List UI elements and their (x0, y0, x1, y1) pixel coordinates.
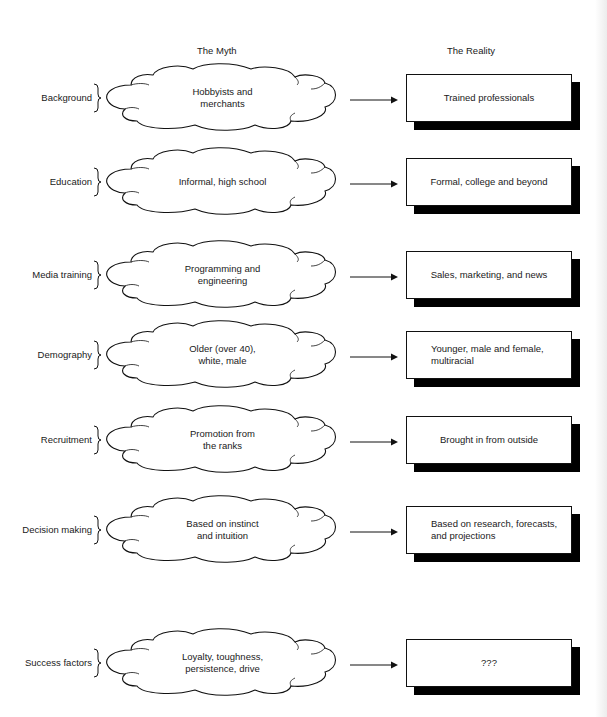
row-label: Media training (32, 269, 92, 280)
comparison-row-success-factors: Success factors Loyalty, toughness,persi… (0, 628, 607, 698)
right-arrow-icon (350, 96, 398, 104)
brace-icon (92, 167, 102, 197)
brace-icon (92, 648, 102, 678)
right-arrow-icon (350, 438, 398, 446)
reality-box: Sales, marketing, and news (406, 251, 572, 299)
myth-column-header: The Myth (197, 45, 237, 56)
brace-icon (92, 515, 102, 545)
row-label: Demography (38, 349, 92, 360)
row-label: Background (41, 92, 92, 103)
comparison-row-media-training: Media training Programming andengineerin… (0, 240, 607, 310)
reality-box: Younger, male and female,multiracial (406, 331, 572, 379)
reality-box: ??? (406, 639, 572, 687)
comparison-row-decision-making: Decision making Based on instinctand int… (0, 495, 607, 565)
reality-text: Sales, marketing, and news (431, 269, 548, 282)
comparison-row-demography: Demography Older (over 40),white, male Y… (0, 320, 607, 390)
reality-column-header: The Reality (447, 45, 495, 56)
reality-text: ??? (481, 657, 497, 670)
row-label: Recruitment (41, 434, 92, 445)
myth-text: Older (over 40),white, male (150, 320, 295, 390)
comparison-row-background: Background Hobbyists andmerchants Traine… (0, 63, 607, 133)
reality-box: Formal, college and beyond (406, 158, 572, 206)
reality-text: Formal, college and beyond (430, 176, 547, 189)
comparison-row-education: Education Informal, high school Formal, … (0, 147, 607, 217)
reality-text: Brought in from outside (440, 434, 538, 447)
right-arrow-icon (350, 180, 398, 188)
brace-icon (92, 83, 102, 113)
right-arrow-icon (350, 528, 398, 536)
reality-text: Younger, male and female,multiracial (431, 343, 544, 368)
myth-text: Based on instinctand intuition (150, 495, 295, 565)
myth-text: Promotion fromthe ranks (150, 405, 295, 475)
reality-box: Trained professionals (406, 74, 572, 122)
myth-text: Programming andengineering (150, 240, 295, 310)
reality-text: Trained professionals (444, 92, 534, 105)
right-arrow-icon (350, 353, 398, 361)
reality-box: Brought in from outside (406, 416, 572, 464)
brace-icon (92, 260, 102, 290)
comparison-row-recruitment: Recruitment Promotion fromthe ranks Brou… (0, 405, 607, 475)
myth-text: Informal, high school (150, 147, 295, 217)
reality-text: Based on research, forecasts,and project… (431, 518, 557, 543)
row-label: Education (50, 176, 92, 187)
right-arrow-icon (350, 661, 398, 669)
row-label: Decision making (22, 524, 92, 535)
brace-icon (92, 425, 102, 455)
right-arrow-icon (350, 273, 398, 281)
myth-text: Hobbyists andmerchants (150, 63, 295, 133)
brace-icon (92, 340, 102, 370)
row-label: Success factors (25, 657, 92, 668)
myth-text: Loyalty, toughness,persistence, drive (150, 628, 295, 698)
reality-box: Based on research, forecasts,and project… (406, 506, 572, 554)
